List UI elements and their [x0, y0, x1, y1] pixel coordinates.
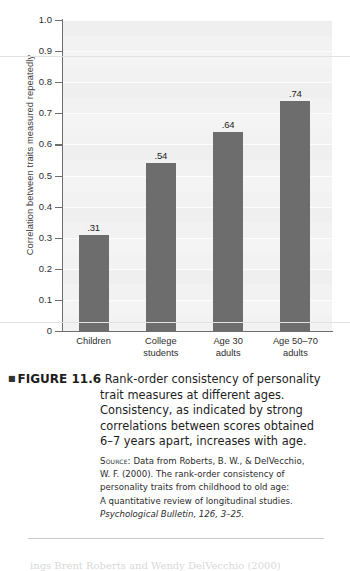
source-line-0: Source: Data from Roberts, B. W., & DelV…: [100, 455, 342, 468]
plot-band: [63, 20, 332, 36]
caption-first-line: ■FIGURE 11.6 Rank-order consistency of p…: [8, 371, 342, 388]
source-line-1: W. F. (2000). The rank-order consistency…: [100, 468, 342, 481]
y-axis-tick-label: 0.1: [12, 294, 52, 305]
y-axis-tick-label: 0.6: [12, 138, 52, 149]
y-axis-tick-label: 0.7: [12, 107, 52, 118]
square-bullet-icon: ■: [8, 374, 16, 383]
x-axis-line: [62, 331, 333, 332]
caption-line-3: correlations between scores obtained: [100, 419, 342, 435]
bar: [79, 235, 109, 331]
bar-value-label: .64: [208, 119, 248, 130]
bar-value-label: .31: [74, 222, 114, 233]
y-axis-tick: [55, 238, 62, 239]
y-axis-tick: [55, 20, 62, 21]
y-axis-tick-label: 0.3: [12, 232, 52, 243]
figure-number-label: FIGURE 11.6: [18, 372, 101, 386]
caption-line-4: 6–7 years apart, increases with age.: [100, 434, 342, 450]
x-axis-category-label-line: students: [130, 348, 192, 360]
x-axis-category-label-line: adults: [264, 348, 326, 360]
caption-body: trait measures at different ages. Consis…: [100, 388, 342, 450]
bar: [146, 163, 176, 331]
x-axis-category-label: Age 50–70adults: [264, 336, 326, 359]
caption-line-2: Consistency, as indicated by strong: [100, 403, 342, 419]
y-axis-tick: [55, 331, 62, 332]
y-axis-tick-label: 1.0: [12, 14, 52, 25]
x-axis-category-label-line: Children: [63, 336, 125, 348]
caption-text: ■FIGURE 11.6 Rank-order consistency of p…: [8, 371, 342, 450]
y-axis-tick-label: 0: [12, 325, 52, 336]
grid-line: [63, 82, 332, 83]
plot-band: [63, 51, 332, 67]
page-divider-rule: [28, 538, 324, 539]
bar: [280, 101, 310, 331]
y-axis-tick: [55, 300, 62, 301]
y-axis-tick: [55, 113, 62, 114]
y-axis-tick-label: 0.4: [12, 201, 52, 212]
source-text-0: Data from Roberts, B. W., & DelVecchio,: [133, 456, 304, 466]
caption-line-1: trait measures at different ages.: [100, 388, 342, 404]
figure-caption: ■FIGURE 11.6 Rank-order consistency of p…: [8, 371, 342, 521]
x-axis-category-label-line: College: [130, 336, 192, 348]
y-axis-tick-label: 0.2: [12, 263, 52, 274]
y-axis-tick: [55, 176, 62, 177]
y-axis-tick-label: 0.8: [12, 76, 52, 87]
y-axis-tick-label: 0.5: [12, 170, 52, 181]
source-line-2: personality traits from childhood to old…: [100, 481, 342, 494]
y-axis-line: [62, 19, 63, 332]
y-axis-tick: [55, 51, 62, 52]
figure-bar-chart: Correlation between traits measured repe…: [0, 0, 350, 372]
x-axis-category-label-line: Age 50–70: [264, 336, 326, 348]
y-axis-tick: [55, 207, 62, 208]
source-note: Source: Data from Roberts, B. W., & DelV…: [100, 455, 342, 521]
source-citation-italic: Psychological Bulletin, 126, 3–25.: [100, 508, 342, 521]
y-axis-tick: [55, 269, 62, 270]
x-axis-category-label-line: Age 30: [197, 336, 259, 348]
x-axis-category-label: Collegestudents: [130, 336, 192, 359]
bar-value-label: .54: [141, 150, 181, 161]
page-body-text-fragment: ings Brent Roberts and Wendy DelVecchio …: [30, 560, 330, 571]
x-axis-category-label: Age 30adults: [197, 336, 259, 359]
x-axis-category-label: Children: [63, 336, 125, 348]
grid-line: [63, 51, 332, 52]
source-line-3: A quantitative review of longitudinal st…: [100, 495, 342, 508]
y-axis-tick: [55, 144, 62, 145]
source-label: Source:: [100, 456, 131, 466]
bar: [213, 132, 243, 331]
grid-line: [63, 20, 332, 21]
x-axis-category-label-line: adults: [197, 348, 259, 360]
y-axis-tick-label: 0.9: [12, 45, 52, 56]
y-axis-tick: [55, 82, 62, 83]
caption-line-0: Rank-order consistency of personality: [105, 372, 321, 386]
bar-value-label: .74: [275, 88, 315, 99]
